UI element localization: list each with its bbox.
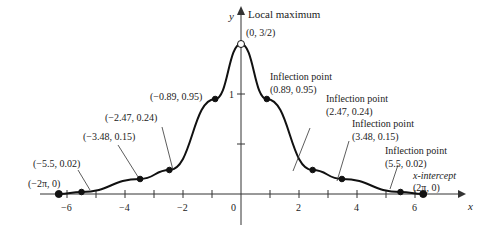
svg-text:(2π, 0): (2π, 0) xyxy=(413,182,440,194)
svg-text:x: x xyxy=(467,200,473,212)
svg-text:y: y xyxy=(228,10,234,22)
svg-text:(2.47, 0.24): (2.47, 0.24) xyxy=(326,106,373,118)
svg-text:Inflection point: Inflection point xyxy=(352,118,414,129)
svg-text:(−0.89, 0.95): (−0.89, 0.95) xyxy=(150,91,202,103)
data-point xyxy=(79,189,85,195)
svg-text:(5.5, 0.02): (5.5, 0.02) xyxy=(385,158,427,170)
svg-text:1: 1 xyxy=(229,89,234,100)
data-point xyxy=(137,176,143,182)
svg-text:(−2.47, 0.24): (−2.47, 0.24) xyxy=(105,112,157,124)
svg-text:(−5.5, 0.02): (−5.5, 0.02) xyxy=(33,158,80,170)
data-point xyxy=(238,41,245,48)
svg-text:(−2π, 0): (−2π, 0) xyxy=(28,178,60,190)
svg-text:(0, 3/2): (0, 3/2) xyxy=(246,27,275,39)
data-point xyxy=(55,191,62,198)
svg-text:2: 2 xyxy=(296,202,301,213)
data-point xyxy=(339,176,345,182)
svg-text:(3.48, 0.15): (3.48, 0.15) xyxy=(352,131,399,143)
y-axis-arrow-icon xyxy=(237,6,245,15)
svg-text:Local maximum: Local maximum xyxy=(248,8,321,20)
svg-text:(0.89, 0.95): (0.89, 0.95) xyxy=(270,84,317,96)
svg-text:4: 4 xyxy=(354,202,359,213)
svg-text:Inflection point: Inflection point xyxy=(326,93,388,104)
svg-text:6: 6 xyxy=(412,202,417,213)
data-point xyxy=(264,96,270,102)
data-point xyxy=(212,96,218,102)
svg-text:(−3.48, 0.15): (−3.48, 0.15) xyxy=(83,131,135,143)
svg-text:x-intercept: x-intercept xyxy=(412,170,456,181)
svg-text:Inflection point: Inflection point xyxy=(270,71,332,82)
data-point xyxy=(167,167,173,173)
chart: −6 −4 −2 0 2 4 6 1 y x Local maximum (0,… xyxy=(0,0,482,231)
x-axis-arrow-icon xyxy=(458,190,466,198)
annotations: Local maximum (0, 3/2) Inflection point … xyxy=(28,8,456,194)
svg-text:Inflection point: Inflection point xyxy=(385,145,447,156)
svg-text:−2: −2 xyxy=(177,202,188,213)
svg-text:−4: −4 xyxy=(119,202,130,213)
data-point xyxy=(398,189,404,195)
svg-text:−6: −6 xyxy=(61,202,72,213)
svg-text:0: 0 xyxy=(231,202,236,213)
data-point xyxy=(310,167,316,173)
